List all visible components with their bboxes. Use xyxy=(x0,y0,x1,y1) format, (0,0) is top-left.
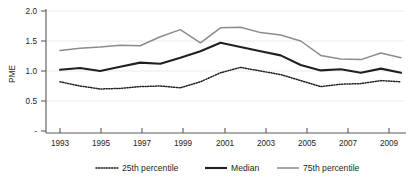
series-line-median xyxy=(60,43,401,73)
x-tick-label-2005: 2005 xyxy=(298,139,317,148)
y-axis: 2.0 1.5 1.0 0.5 - PME xyxy=(8,7,46,136)
gridlines xyxy=(46,11,404,101)
y-tick-label-1.5: 1.5 xyxy=(26,37,38,46)
y-tick-label-2.0: 2.0 xyxy=(26,7,38,16)
x-tick-label-2003: 2003 xyxy=(257,139,276,148)
legend-label-75th-percentile: 75th percentile xyxy=(303,163,360,173)
x-tick-label-1995: 1995 xyxy=(92,139,111,148)
legend-label-25th-percentile: 25th percentile xyxy=(122,163,179,173)
y-axis-title: PME xyxy=(8,65,17,83)
pme-line-chart: 2.0 1.5 1.0 0.5 - PME 1993 1995 1997 199… xyxy=(0,0,416,189)
series-line-75th-percentile xyxy=(60,27,401,59)
x-tick-label-2001: 2001 xyxy=(216,139,235,148)
x-tick-label-2007: 2007 xyxy=(339,139,358,148)
plot-series xyxy=(60,27,401,89)
x-tick-label-1999: 1999 xyxy=(174,139,193,148)
chart-figure: 2.0 1.5 1.0 0.5 - PME 1993 1995 1997 199… xyxy=(0,0,416,189)
x-axis: 1993 1995 1997 1999 2001 2003 2005 2007 … xyxy=(46,128,406,148)
legend-label-median: Median xyxy=(231,163,259,173)
x-tick-label-1997: 1997 xyxy=(133,139,152,148)
x-tick-label-2009: 2009 xyxy=(380,139,399,148)
y-tick-label-0.5: 0.5 xyxy=(26,97,38,106)
legend: 25th percentile Median 75th percentile xyxy=(96,163,360,173)
y-tick-label-zero: - xyxy=(34,127,37,136)
x-tick-label-1993: 1993 xyxy=(51,139,70,148)
y-tick-label-1.0: 1.0 xyxy=(26,67,38,76)
